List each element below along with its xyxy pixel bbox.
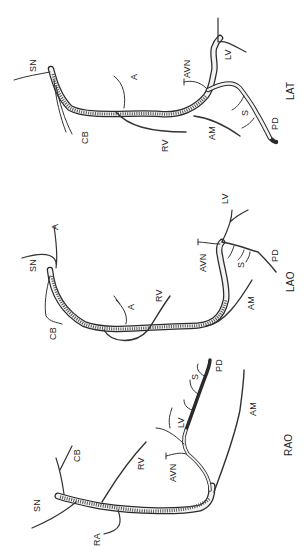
lao-label-lv: LV [220,193,230,204]
lat-am-branch [194,116,240,136]
lat-main-vessel [51,38,276,142]
rao-cb-branch [56,446,72,494]
lao-label-rv: RV [154,289,164,302]
lao-label-avn: AVN [198,254,208,272]
rao-am-branch [214,370,244,492]
view-lat: SN CB A RV AVN AM LV S PD LAT [14,18,296,152]
rao-label-am: AM [248,402,258,416]
lao-label-sn: SN [28,259,38,272]
lat-label-pd: PD [270,117,280,130]
lao-label-s: S [236,262,246,268]
lao-label-pd: PD [270,249,280,262]
lat-sn-branch [14,72,50,80]
coronary-artery-diagram: SN CB A RV AVN AM LV S PD LAT SN A CB A … [0,0,304,553]
lat-label-am: AM [207,126,217,140]
lao-label-cb: CB [48,327,58,340]
rao-rv-branch [102,442,146,502]
rao-label-lv: LV [176,417,186,428]
lat-avn-branch [184,79,206,88]
lao-a-branch [114,296,127,324]
lao-avn-branch [198,239,220,245]
rao-label-rv: RV [136,457,146,470]
rao-ra-branch [104,510,120,534]
rao-label-sn: SN [32,499,42,512]
rao-main-vessel [58,360,212,511]
lat-label-sn: SN [28,59,38,72]
lat-label-rv: RV [160,139,170,152]
rao-label-s: S [190,374,200,380]
rao-label-cb: CB [72,449,82,462]
lat-label-a: A [129,74,139,80]
lao-label-a: A [126,304,136,310]
lat-label-cb: CB [80,131,90,144]
rao-label-avn: AVN [168,464,178,482]
view-lao: SN A CB A RV AVN AM LV S PD LAO [22,193,296,340]
rao-avn-branch [166,453,186,459]
lat-view-label: LAT [285,82,296,100]
lat-label-lv: LV [223,49,233,60]
lao-lv-branch [222,210,248,242]
lat-label-avn: AVN [182,60,192,78]
lao-label-am: AM [246,296,256,310]
lao-label-a-prox: A [50,224,60,230]
rao-view-label: RAO [283,434,294,456]
lat-a-branch [114,76,125,108]
lao-view-label: LAO [285,271,296,292]
view-rao: SN RA CB RV AVN LV S PD AM RAO [32,359,294,546]
rao-label-pd: PD [214,359,224,372]
lat-lv-branch [218,18,246,52]
lat-label-s: S [240,110,250,116]
rao-label-ra: RA [92,533,102,546]
